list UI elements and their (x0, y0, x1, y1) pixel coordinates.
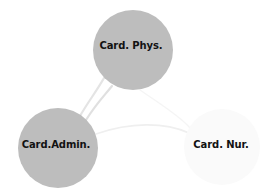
node-card-nur[interactable] (184, 109, 260, 185)
node-layer (18, 10, 260, 188)
node-card-phys[interactable] (93, 10, 173, 90)
node-card-admin[interactable] (18, 108, 98, 188)
edge-card-admin-card-nur (96, 125, 189, 134)
edge-card-phys-card-admin-2 (86, 86, 112, 120)
network-graph-canvas: Card. Phys. Card.Admin. Card. Nur. (0, 0, 266, 190)
graph-svg (0, 0, 266, 190)
edge-card-phys-card-nur (140, 90, 190, 128)
